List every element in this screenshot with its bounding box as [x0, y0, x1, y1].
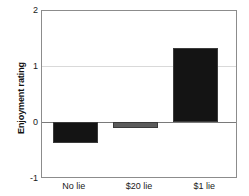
x-tick-label-1-lie: $1 lie	[172, 180, 237, 196]
x-tick-label-20-lie: $20 lie	[106, 180, 171, 196]
y-tick-label-2: 2	[5, 5, 41, 15]
y-tick-label-0: 0	[5, 117, 41, 127]
bar-no-lie	[53, 122, 98, 144]
y-tick-label-1: 1	[5, 61, 41, 71]
y-axis-tick-labels: 2 1 0 -1	[0, 0, 41, 196]
bar-chart-figure: Enjoyment rating 2 1 0 -1 No lie $20 lie…	[0, 0, 249, 196]
x-tick-label-no-lie: No lie	[41, 180, 106, 196]
y-tick-label-neg1: -1	[5, 173, 41, 183]
bar-20-lie	[113, 122, 158, 129]
bar-1-lie	[173, 48, 218, 122]
x-axis-tick-labels: No lie $20 lie $1 lie	[41, 180, 237, 196]
plot-area	[41, 10, 237, 178]
